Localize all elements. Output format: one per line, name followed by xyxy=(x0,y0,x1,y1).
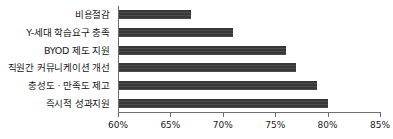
bar xyxy=(118,81,317,90)
bar xyxy=(118,28,233,37)
x-axis-tick xyxy=(223,113,224,117)
x-axis-line xyxy=(118,112,381,113)
bar-row xyxy=(118,6,380,24)
x-axis-tick xyxy=(170,113,171,117)
category-label: 직원간 커뮤니케이션 개선 xyxy=(8,62,114,73)
x-axis-tick-label: 75% xyxy=(265,120,285,130)
category-label: 비용절감 xyxy=(75,9,114,20)
x-axis-tick xyxy=(380,113,381,117)
category-label: 즉시적 성과지원 xyxy=(46,98,114,109)
category-label: 충성도 · 만족도 제고 xyxy=(28,80,114,91)
category-label: BYOD 제도 지원 xyxy=(44,45,114,56)
bar-chart: 비용절감 Y-세대 학습요구 충족 BYOD 제도 지원 직원간 커뮤니케이션 … xyxy=(0,0,393,139)
bar-series xyxy=(118,6,380,112)
x-axis-tick-label: 60% xyxy=(108,120,128,130)
bar-row xyxy=(118,94,380,112)
x-axis-tick xyxy=(275,113,276,117)
plot-area xyxy=(118,6,380,112)
bar xyxy=(118,63,296,72)
category-axis-labels: 비용절감 Y-세대 학습요구 충족 BYOD 제도 지원 직원간 커뮤니케이션 … xyxy=(0,6,114,112)
bar xyxy=(118,10,191,19)
x-axis-tick-label: 85% xyxy=(370,120,390,130)
bar xyxy=(118,99,328,108)
x-axis-tick-label: 70% xyxy=(213,120,233,130)
x-axis-tick xyxy=(328,113,329,117)
category-label: Y-세대 학습요구 충족 xyxy=(26,27,114,38)
bar-row xyxy=(118,77,380,95)
bar-row xyxy=(118,59,380,77)
y-axis-line xyxy=(118,6,119,113)
x-axis-tick-label: 65% xyxy=(160,120,180,130)
x-axis-tick xyxy=(118,113,119,117)
bar-row xyxy=(118,24,380,42)
bar-row xyxy=(118,41,380,59)
x-axis-tick-label: 80% xyxy=(318,120,338,130)
bar xyxy=(118,46,286,55)
